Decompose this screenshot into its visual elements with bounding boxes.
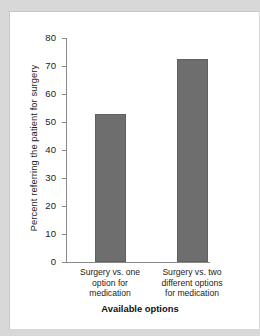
y-axis-tick-mark bbox=[62, 150, 66, 151]
y-axis-tick-mark bbox=[62, 94, 66, 95]
category-label-line: Surgery vs. one bbox=[68, 267, 152, 278]
y-axis-tick-mark bbox=[62, 206, 66, 207]
y-axis-tick-label: 80 bbox=[34, 33, 56, 43]
y-axis-tick-mark bbox=[62, 178, 66, 179]
x-axis-line bbox=[66, 262, 210, 263]
bar-chart-figure: Percent referring the patient for surger… bbox=[0, 0, 260, 336]
x-axis-category-label: Surgery vs. oneoption formedication bbox=[68, 267, 152, 299]
y-axis-tick-label: 30 bbox=[34, 173, 56, 183]
y-axis-tick-mark bbox=[62, 262, 66, 263]
category-label-line: different options bbox=[150, 278, 234, 289]
category-label-line: medication bbox=[68, 288, 152, 299]
category-label-line: for medication bbox=[150, 288, 234, 299]
y-axis-tick-label: 0 bbox=[34, 257, 56, 267]
y-axis-tick-label: 10 bbox=[34, 229, 56, 239]
y-axis-tick-label: 70 bbox=[34, 61, 56, 71]
y-axis-tick-mark bbox=[62, 38, 66, 39]
y-axis-tick-label: 20 bbox=[34, 201, 56, 211]
bar bbox=[95, 114, 126, 262]
y-axis-tick-mark bbox=[62, 122, 66, 123]
category-label-line: option for bbox=[68, 278, 152, 289]
y-axis-tick-label: 50 bbox=[34, 117, 56, 127]
y-axis-tick-mark bbox=[62, 66, 66, 67]
x-axis-title: Available options bbox=[66, 303, 214, 314]
x-axis-category-label: Surgery vs. twodifferent optionsfor medi… bbox=[150, 267, 234, 299]
category-label-line: Surgery vs. two bbox=[150, 267, 234, 278]
y-axis-tick-label: 60 bbox=[34, 89, 56, 99]
y-axis-tick-mark bbox=[62, 234, 66, 235]
y-axis-line bbox=[66, 38, 67, 263]
bar bbox=[177, 59, 208, 262]
y-axis-tick-label: 40 bbox=[34, 145, 56, 155]
